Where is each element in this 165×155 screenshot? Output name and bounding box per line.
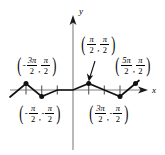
fraction-numerator: π bbox=[89, 35, 95, 44]
y-axis-label: y bbox=[79, 6, 83, 16]
paren-close: ) bbox=[124, 106, 128, 122]
paren-open: ( bbox=[17, 58, 21, 74]
fraction-y: π 2 bbox=[45, 104, 55, 123]
fraction-denominator: 2 bbox=[102, 46, 108, 55]
fraction-denominator: 2 bbox=[47, 115, 53, 124]
point-label-peak-right: ( 5π 2 , π 2 ) bbox=[114, 56, 152, 75]
fraction-numerator: 3π bbox=[27, 56, 38, 65]
paren-close: ) bbox=[52, 58, 56, 74]
fraction-numerator: π bbox=[115, 104, 121, 113]
paren-open: ( bbox=[115, 58, 119, 74]
fraction-x: 3π 2 bbox=[95, 104, 107, 123]
point-label-peak-center: ( π 2 , π 2 ) bbox=[80, 35, 117, 54]
fraction-x: π 2 bbox=[87, 35, 97, 54]
point-label-valley-left: ( - π 2 , - π 2 ) bbox=[18, 104, 62, 123]
paren-close: ) bbox=[147, 58, 151, 74]
point-label-peak-left: ( - 3π 2 , π 2 ) bbox=[16, 56, 58, 75]
fraction-denominator: 2 bbox=[97, 115, 103, 124]
fraction-numerator: 5π bbox=[121, 56, 132, 65]
fraction-x: 5π 2 bbox=[121, 56, 133, 75]
fraction-denominator: 2 bbox=[89, 46, 95, 55]
paren-close: ) bbox=[56, 106, 60, 122]
fraction-y: π 2 bbox=[113, 104, 123, 123]
fraction-numerator: π bbox=[137, 56, 143, 65]
fraction-numerator: π bbox=[47, 104, 53, 113]
fraction-y: π 2 bbox=[100, 35, 110, 54]
paren-close: ) bbox=[111, 37, 115, 53]
fraction-denominator: 2 bbox=[137, 67, 143, 76]
fraction-denominator: 2 bbox=[123, 67, 129, 76]
fraction-denominator: 2 bbox=[30, 115, 36, 124]
point-label-valley-right: ( 3π 2 , - π 2 ) bbox=[88, 104, 130, 123]
graph-figure: y x ( - 3π 2 , π 2 ) ( π 2 , π 2 ) bbox=[0, 0, 165, 155]
leader-arrow-icon bbox=[87, 61, 95, 82]
paren-open: ( bbox=[19, 106, 23, 122]
x-axis-label: x bbox=[152, 85, 156, 95]
fraction-denominator: 2 bbox=[115, 115, 121, 124]
paren-open: ( bbox=[81, 37, 85, 53]
data-point-peak-center bbox=[86, 81, 91, 86]
data-point-peak-left bbox=[24, 81, 29, 86]
fraction-numerator: π bbox=[43, 56, 49, 65]
data-point-valley-right bbox=[118, 94, 123, 99]
y-axis bbox=[70, 15, 77, 150]
fraction-y: π 2 bbox=[41, 56, 51, 75]
data-point-peak-right bbox=[133, 81, 138, 86]
fraction-x: π 2 bbox=[28, 104, 38, 123]
fraction-numerator: π bbox=[30, 104, 36, 113]
fraction-denominator: 2 bbox=[29, 67, 35, 76]
data-point-valley-left bbox=[39, 94, 44, 99]
fraction-y: π 2 bbox=[135, 56, 145, 75]
fraction-numerator: π bbox=[102, 35, 108, 44]
fraction-denominator: 2 bbox=[43, 67, 49, 76]
paren-open: ( bbox=[89, 106, 93, 122]
fraction-x: 3π 2 bbox=[26, 56, 38, 75]
plot-canvas bbox=[0, 0, 165, 155]
fraction-numerator: 3π bbox=[95, 104, 106, 113]
